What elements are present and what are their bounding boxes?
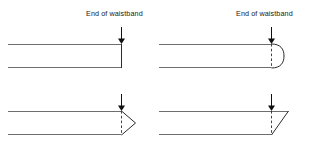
square-end-drawing: [0, 0, 155, 75]
panel-pointed-end: [0, 75, 155, 149]
waistband-body-square: [8, 44, 122, 68]
waistband-end-diagram: End of waistband End of waistband: [0, 0, 310, 149]
panel-rounded-end: End of waistband: [155, 0, 310, 75]
panel-square-end: End of waistband: [0, 0, 155, 75]
waistband-body-angled: [159, 111, 289, 135]
rounded-end-drawing: [155, 0, 310, 75]
panel-angled-end: [155, 75, 310, 149]
end-of-waistband-arrow-angled: [268, 94, 275, 111]
angled-end-drawing: [155, 75, 310, 149]
waistband-body-pointed: [8, 111, 136, 135]
waistband-body-rounded: [159, 44, 284, 68]
pointed-end-drawing: [0, 75, 155, 149]
end-of-waistband-arrow-rounded: [268, 27, 275, 44]
end-of-waistband-arrow-pointed: [118, 94, 125, 111]
end-of-waistband-arrow-square: [118, 27, 125, 44]
